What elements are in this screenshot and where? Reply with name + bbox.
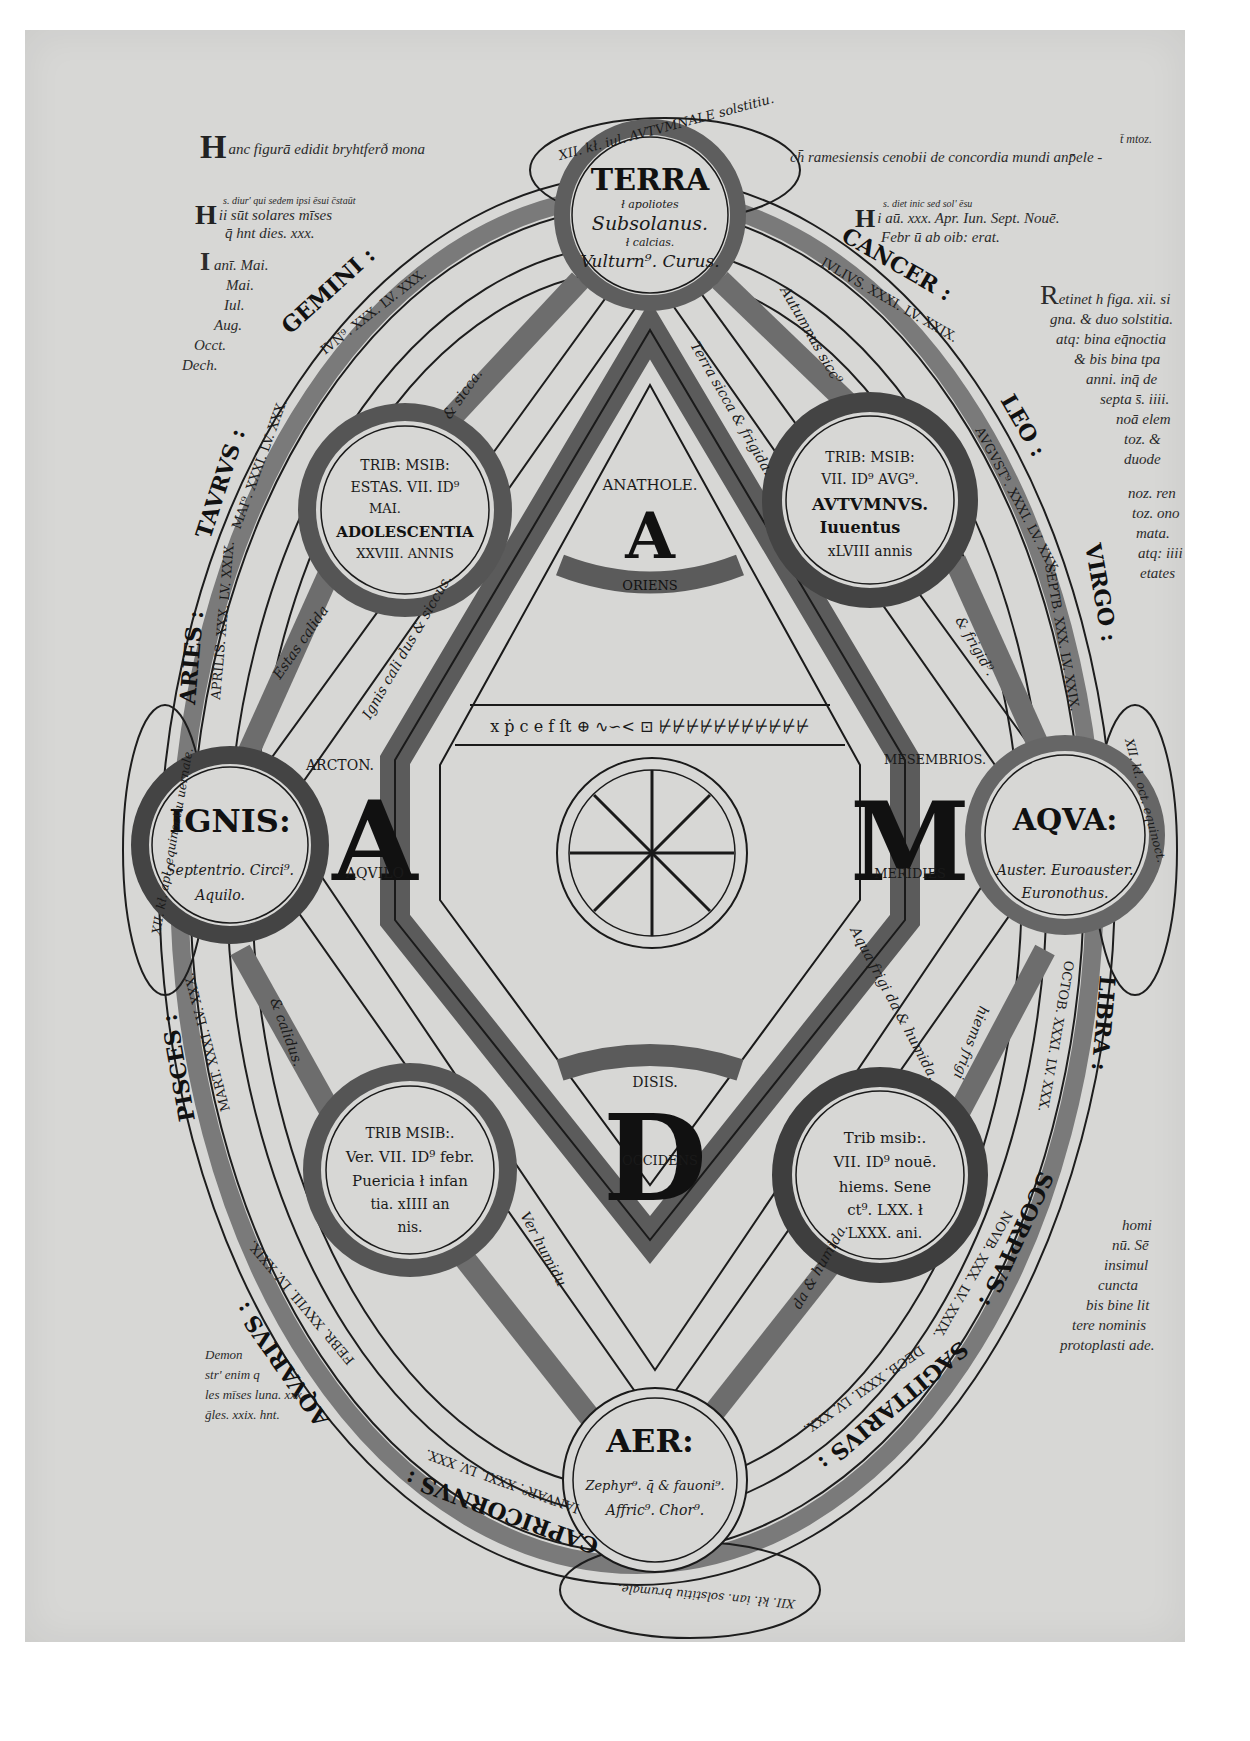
- note-right-line: noā elem: [1116, 409, 1190, 429]
- note-right-line: atq: iiii: [1138, 543, 1190, 563]
- note-left-bottom: Demon str' enim q les mīses luna. xxx. ḡ…: [205, 1345, 305, 1425]
- aer-title: AER:: [605, 1422, 694, 1460]
- note-right-line: etates: [1140, 563, 1190, 583]
- occidens-label: OCCIDENS: [622, 1153, 698, 1168]
- note-right-line: anni. inq̄ de: [1086, 369, 1190, 389]
- note-right-line: gna. & duo solstitia.: [1050, 309, 1190, 329]
- note-top-right-text: ch̄ ramesiensis cenobii de concordia mun…: [790, 149, 1102, 165]
- note-right-line: atq: bina eq̄noctia: [1056, 329, 1190, 349]
- note-left-i-line: Occt.: [194, 335, 268, 355]
- rune-row: x ṗ c e f ſt ⊕ ∿∽< ⊡ ⊬⊬⊬⊬⊬⊬⊬⊬⊬⊬⊬: [490, 717, 810, 736]
- ignis-title: IGNIS:: [169, 802, 290, 840]
- note-right-bottom-line: bis bine lit: [1086, 1295, 1154, 1315]
- byrhtferth-diagram: TERRA ł apoliotes Subsolanus. ł calcias.…: [0, 0, 1250, 1741]
- hiems-line-4: ct⁹. LXX. ł: [847, 1201, 923, 1219]
- note-left-h-line2: q̄ hnt dies. xxx.: [225, 225, 315, 241]
- mesembrios-label: MESEMBRIOS.: [884, 752, 986, 767]
- ver-line-1: TRIB MSIB:.: [365, 1125, 454, 1141]
- note-right-h-line2: Febr ū ab oib: erat.: [881, 229, 1000, 245]
- note-left-h-line1: ii sūt solares mīses: [219, 207, 332, 223]
- quality-ver: Ver humidu: [517, 1209, 570, 1289]
- letter-m-right: M: [850, 779, 970, 905]
- ver-line-5: nis.: [397, 1219, 422, 1235]
- estas-line-3: MAI.: [369, 501, 401, 516]
- note-left-i-line: Mai.: [226, 275, 268, 295]
- initial-h-3: H: [855, 204, 875, 233]
- initial-h: H: [200, 128, 226, 165]
- initial-h-2: H: [195, 199, 217, 230]
- note-right-line: & bis bina tpa: [1074, 349, 1190, 369]
- terra-line-3: ł calcias.: [626, 236, 675, 249]
- note-right-line: septa s̄. iiii.: [1100, 389, 1190, 409]
- estas-line-1: TRIB: MSIB:: [360, 457, 449, 473]
- note-right-line: etinet h figa. xii. si: [1059, 291, 1171, 307]
- estas-line-5: XXVIII. ANNIS: [356, 546, 454, 561]
- solstice-bottom: XII. kł. ian. solstitiu brumale.: [617, 1582, 796, 1612]
- note-left-i: I anī. Mai. Mai. Iul. Aug. Occt. Dech.: [200, 252, 268, 375]
- note-left-i-line: Aug.: [214, 315, 268, 335]
- note-right-bottom-line: homi: [1122, 1215, 1154, 1235]
- ver-line-3: Puericia ł infan: [352, 1172, 468, 1190]
- estas-line-4: ADOLESCENTIA: [335, 523, 474, 541]
- circle-ver: [312, 1072, 508, 1268]
- aer-line-2: Affric⁹. Chor⁹.: [604, 1502, 704, 1518]
- note-left-i-line: anī. Mai.: [214, 257, 269, 273]
- note-right-h-line1: i aū. xxx. Apr. Iun. Sept. Nouē.: [877, 210, 1059, 226]
- note-right-line: toz. ono: [1132, 503, 1190, 523]
- note-left-bottom-line: str' enim q: [205, 1365, 305, 1385]
- autumnus-line-4: Iuuentus: [820, 518, 901, 537]
- oriens-label: ORIENS: [622, 578, 677, 593]
- anathole-label: ANATHOLE.: [601, 476, 697, 494]
- aer-line-1: Zephyr⁹. q̄ & fauoni⁹.: [584, 1478, 724, 1493]
- aqua-line-2: Euronothus.: [1020, 885, 1108, 901]
- note-right-bottom-line: nū. Sē: [1112, 1235, 1154, 1255]
- note-right-column: Retinet h figa. xii. si gna. & duo solst…: [1040, 285, 1190, 583]
- note-top-right-above: t̄ mtoz.: [1120, 130, 1152, 148]
- quality-ver-calidus: & calidus.: [267, 996, 307, 1069]
- note-top-left: Hanc figurā edidit bryhtferð mona: [200, 138, 425, 158]
- aquilo-label: AQVILO: [345, 865, 404, 881]
- aqua-line-1: Auster. Euroauster.: [995, 862, 1134, 878]
- note-right-bottom-line: cuncta: [1098, 1275, 1154, 1295]
- autumnus-line-2: VII. ID⁹ AVG⁹.: [820, 471, 919, 487]
- note-right-bottom-line: tere nominis: [1072, 1315, 1154, 1335]
- ignis-line-1: Septentrio. Circi⁹.: [166, 862, 294, 878]
- initial-i: I: [200, 247, 210, 276]
- month-virgo: SEPTB. XXX. LV. XXIX.: [1042, 563, 1083, 713]
- estas-line-2: ESTAS. VII. ID⁹: [351, 479, 460, 495]
- note-top-left-text: anc figurā edidit bryhtferð mona: [228, 141, 425, 157]
- note-right-h: s. diet inic sed sol' ēsu Hi aū. xxx. Ap…: [855, 198, 1059, 246]
- terra-line-1: ł apoliotes: [621, 198, 679, 211]
- autumnus-line-5: xLVIII annis: [828, 543, 913, 559]
- note-right-bottom-line: insimul: [1104, 1255, 1154, 1275]
- circle-hiems: [782, 1077, 978, 1273]
- letter-a-left: A: [331, 777, 419, 906]
- initial-r: R: [1040, 279, 1059, 310]
- note-left-bottom-line: les mīses luna. xxx.: [205, 1385, 305, 1405]
- note-left-h-small: s. diur' qui sedem ipsi ēsui c̄staūt: [223, 195, 355, 206]
- note-top-right: ch̄ ramesiensis cenobii de concordia mun…: [790, 148, 1102, 166]
- note-right-line: noz. ren: [1128, 483, 1190, 503]
- autumnus-line-1: TRIB: MSIB:: [825, 449, 914, 465]
- note-left-bottom-line: ḡles. xxix. hnt.: [205, 1405, 305, 1425]
- hiems-line-3: hiems. Sene: [839, 1178, 932, 1196]
- hiems-line-5: LXXX. ani.: [848, 1225, 922, 1241]
- note-right-bottom: homi nū. Sē insimul cuncta bis bine lit …: [1060, 1215, 1154, 1355]
- rune-wheel: [557, 758, 747, 948]
- hiems-line-1: Trib msib:.: [844, 1129, 927, 1147]
- note-right-line: mata.: [1136, 523, 1190, 543]
- autumnus-line-3: AVTVMNVS.: [811, 494, 928, 514]
- circle-estas: [307, 412, 503, 608]
- aqua-title: AQVA:: [1012, 802, 1118, 837]
- note-left-i-line: Dech.: [182, 355, 268, 375]
- note-left-bottom-line: Demon: [205, 1345, 305, 1365]
- arcton-label: ARCTON.: [305, 757, 374, 773]
- terra-line-2: Subsolanus.: [592, 212, 708, 234]
- note-right-line: toz. & duode: [1124, 429, 1190, 469]
- ver-line-2: Ver. VII. ID⁹ febr.: [345, 1148, 475, 1166]
- note-left-h: s. diur' qui sedem ipsi ēsui c̄staūt Hii…: [195, 195, 355, 242]
- terra-line-4: Vulturn⁹. Curus.: [580, 251, 719, 271]
- ignis-line-2: Aquilo.: [193, 887, 245, 903]
- letter-a-top: A: [624, 498, 676, 573]
- note-right-h-small: s. diet inic sed sol' ēsu: [883, 198, 1059, 209]
